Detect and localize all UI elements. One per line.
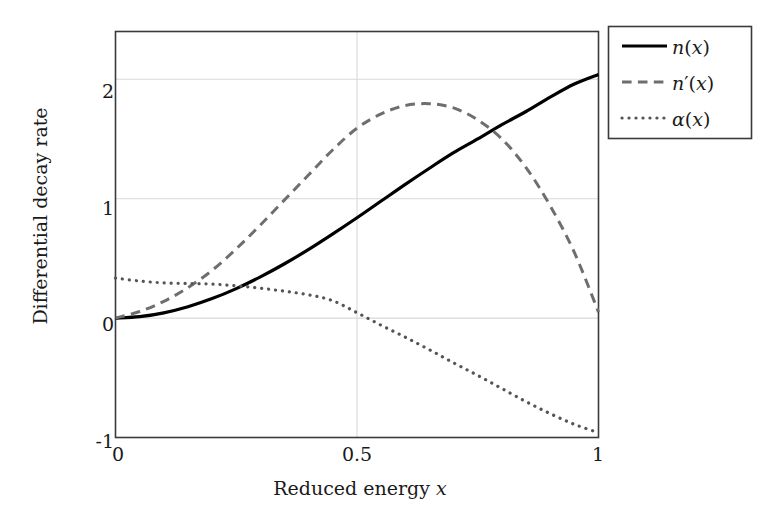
legend-label-alpha: α(x) <box>672 108 710 130</box>
legend-label-n: n(x) <box>672 36 710 58</box>
legend-label-nprime: n′(x) <box>672 72 714 94</box>
gridlines <box>116 32 599 438</box>
figure-container: Differential decay rate Reduced energy x… <box>0 0 767 522</box>
plot-canvas <box>0 0 767 522</box>
